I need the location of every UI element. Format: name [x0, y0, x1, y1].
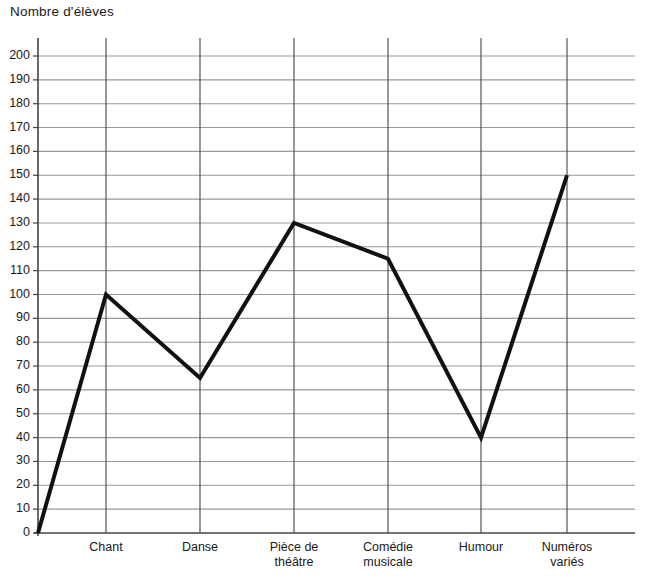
- y-tick-label: 80: [0, 334, 30, 348]
- y-tick-label: 120: [0, 239, 30, 253]
- axis-ticks: [33, 56, 38, 533]
- y-tick-label: 130: [0, 215, 30, 229]
- line-chart: Nombre d'élèves 010203040506070809010011…: [0, 0, 649, 581]
- y-tick-label: 30: [0, 453, 30, 467]
- vertical-gridlines: [106, 38, 567, 533]
- y-tick-label: 40: [0, 430, 30, 444]
- y-tick-label: 180: [0, 96, 30, 110]
- y-tick-label: 170: [0, 120, 30, 134]
- y-tick-label: 110: [0, 263, 30, 277]
- x-tick-label-line: Numéros: [507, 540, 627, 555]
- y-tick-label: 0: [0, 525, 30, 539]
- data-series-line: [38, 175, 567, 533]
- y-tick-label: 20: [0, 477, 30, 491]
- y-tick-label: 10: [0, 501, 30, 515]
- y-tick-label: 60: [0, 382, 30, 396]
- y-tick-label: 50: [0, 406, 30, 420]
- y-tick-label: 150: [0, 167, 30, 181]
- y-tick-label: 100: [0, 287, 30, 301]
- y-tick-label: 190: [0, 72, 30, 86]
- x-tick-label-line: musicale: [328, 555, 448, 570]
- y-tick-label: 70: [0, 358, 30, 372]
- plot-area: [0, 0, 649, 581]
- y-tick-label: 140: [0, 191, 30, 205]
- y-tick-label: 200: [0, 48, 30, 62]
- y-tick-label: 160: [0, 143, 30, 157]
- x-tick-label-line: variés: [507, 555, 627, 570]
- y-tick-label: 90: [0, 310, 30, 324]
- x-tick-label: Numérosvariés: [507, 540, 627, 570]
- horizontal-gridlines: [38, 56, 635, 509]
